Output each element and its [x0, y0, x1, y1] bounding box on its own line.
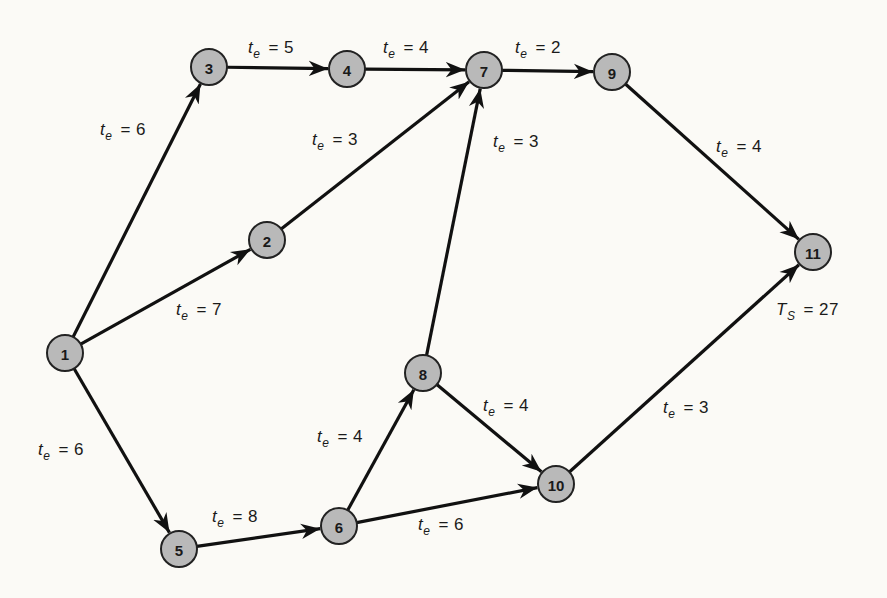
edge-8-to-7: [427, 89, 481, 356]
scheduled-time-annotation: TS= 27: [776, 300, 839, 323]
edge-9-to-11: [625, 84, 798, 239]
node-10: 10: [538, 466, 574, 502]
edge-7-to-9: [502, 70, 593, 71]
edge-label-6-8: te= 4: [317, 427, 363, 450]
svg-text:5: 5: [175, 542, 183, 559]
svg-text:7: 7: [480, 63, 488, 80]
edge-label-2-7: te= 3: [312, 130, 358, 153]
edge-label-8-10: te= 4: [483, 396, 529, 419]
node-4: 4: [329, 51, 365, 87]
svg-text:9: 9: [608, 65, 616, 82]
pert-network-diagram: 1234567891011: [0, 0, 887, 598]
edge-4-to-7: [365, 69, 465, 70]
edge-label-5-6: te= 8: [212, 507, 258, 530]
svg-text:3: 3: [205, 60, 213, 77]
svg-text:6: 6: [335, 519, 343, 536]
edge-1-to-5: [74, 369, 169, 533]
edge-label-9-11: te= 4: [716, 137, 762, 160]
svg-text:8: 8: [419, 366, 427, 383]
edge-label-7-9: te= 2: [515, 38, 561, 61]
edge-5-to-6: [197, 529, 320, 547]
edge-label-8-7: te= 3: [493, 132, 539, 155]
svg-text:2: 2: [263, 233, 271, 250]
edge-label-10-11: te= 3: [663, 398, 709, 421]
edge-2-to-7: [281, 82, 469, 229]
svg-text:11: 11: [805, 245, 821, 262]
node-11: 11: [795, 234, 831, 270]
node-7: 7: [466, 52, 502, 88]
edge-10-to-11: [569, 265, 799, 472]
edge-label-3-4: te= 5: [248, 38, 294, 61]
node-3: 3: [191, 49, 227, 85]
svg-text:4: 4: [343, 62, 352, 79]
node-6: 6: [321, 508, 357, 544]
edge-label-1-5: te= 6: [38, 440, 84, 463]
svg-text:1: 1: [61, 346, 69, 363]
svg-text:10: 10: [548, 477, 565, 494]
edge-1-to-2: [81, 249, 251, 344]
edge-label-1-2: te= 7: [176, 300, 222, 323]
node-8: 8: [405, 355, 441, 391]
node-1: 1: [47, 335, 83, 371]
edge-label-4-7: te= 4: [383, 38, 429, 61]
node-5: 5: [161, 531, 197, 567]
node-2: 2: [249, 222, 285, 258]
node-9: 9: [594, 54, 630, 90]
edge-label-6-10: te= 6: [418, 515, 464, 538]
edge-3-to-4: [227, 67, 328, 68]
edge-label-1-3: te= 6: [100, 120, 146, 143]
